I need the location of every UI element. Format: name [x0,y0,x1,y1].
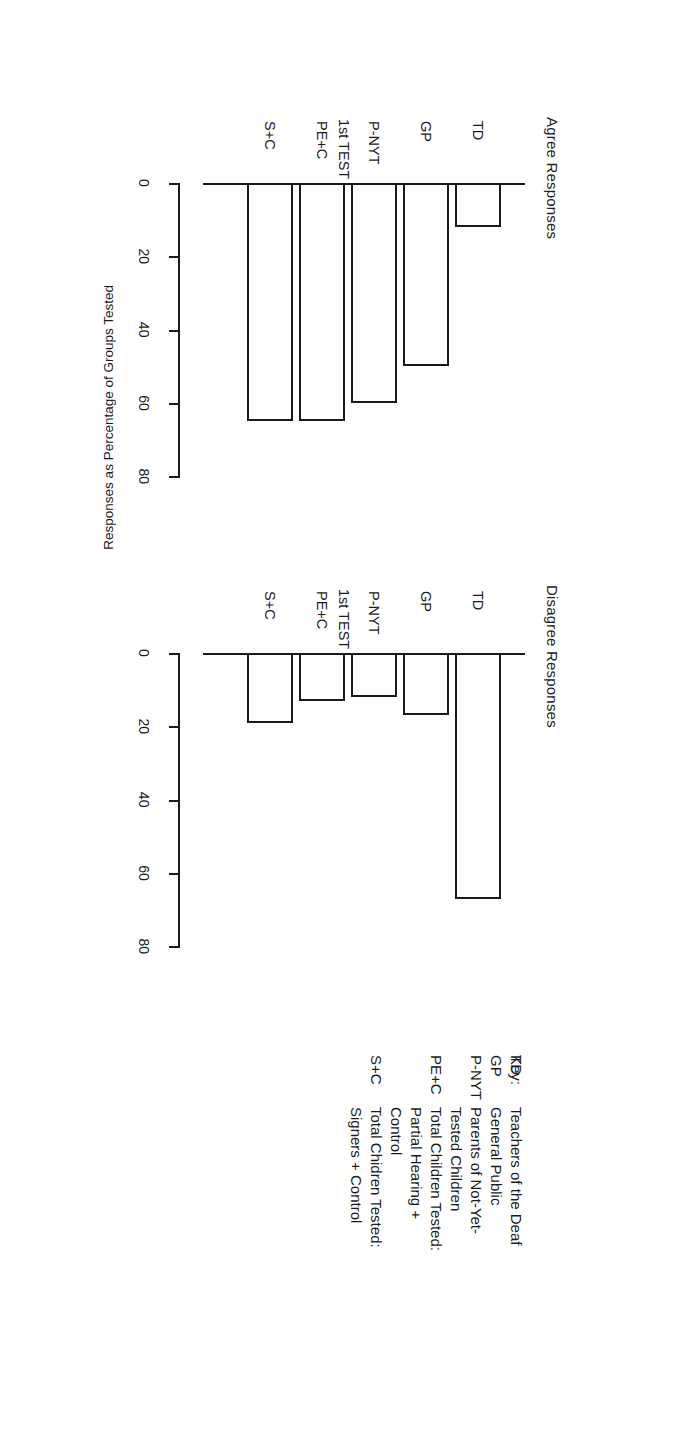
key-desc-line: Partial Hearing + [406,1107,426,1251]
value-tick [169,946,178,948]
chart-panel-agree: Agree Responses 020406080 TDGPP-NYTPE+CS… [0,95,676,565]
value-tick-label: 80 [136,469,152,485]
value-tick-label: 40 [136,322,152,338]
plot-area-disagree: 020406080 TDGPP-NYTPE+CS+C 1st TEST [226,653,501,983]
key-desc-td: Teachers of the Deaf [506,1107,526,1245]
category-label-td: TD [470,121,486,140]
value-tick-label: 20 [136,249,152,265]
value-tick [169,403,178,405]
plot-area-agree: 020406080 TDGPP-NYTPE+CS+C 1st TEST [226,183,501,513]
value-tick [169,256,178,258]
value-tick [169,476,178,478]
bar-p-nyt [351,183,397,403]
bar-pe-plus-c [299,653,345,701]
axis-caption-disagree: 1st TEST [336,589,352,649]
key-desc-line: General Public [486,1107,506,1205]
key-desc-s-plus-c: Total Chidren Tested:Signers + Control [346,1107,386,1248]
bar-gp [403,653,449,715]
key-abbr-td: TD [506,1055,526,1107]
category-label-p-nyt: P-NYT [366,121,382,165]
value-tick-label: 0 [136,649,152,657]
category-label-pe-plus-c: PE+C [314,121,330,159]
chart-panel-disagree: Disagree Responses 020406080 TDGPP-NYTPE… [0,565,676,995]
key-desc-line: Parents of Not-Yet- [466,1107,486,1234]
value-tick [169,873,178,875]
value-tick-label: 40 [136,792,152,808]
value-tick-label: 0 [136,179,152,187]
value-tick-label: 20 [136,719,152,735]
key-desc-line: Total Chidren Tested: [366,1107,386,1248]
axis-caption-agree: 1st TEST [336,119,352,179]
figure-canvas: Agree Responses 020406080 TDGPP-NYTPE+CS… [0,0,676,1436]
bar-gp [403,183,449,366]
value-tick [169,330,178,332]
category-label-s-plus-c: S+C [262,121,278,150]
value-tick-label: 80 [136,939,152,955]
value-tick [169,653,178,655]
value-axis-line-agree [178,183,180,478]
key-desc-line: Control [386,1107,406,1251]
chart-title-agree: Agree Responses [544,117,561,239]
key-abbr-s-plus-c: S+C [366,1055,386,1107]
key-desc-line: Tested Children [446,1107,466,1234]
key-desc-pe-plus-c: Total Children Tested:Partial Hearing +C… [386,1107,446,1251]
key-desc-line: Teachers of the Deaf [506,1107,526,1245]
y-axis-title: Responses as Percentage of Groups Tested [101,285,116,550]
key-desc-p-nyt: Parents of Not-Yet-Tested Children [446,1107,486,1234]
key-desc-line: Total Children Tested: [426,1107,446,1251]
value-axis-line-disagree [178,653,180,948]
bar-s-plus-c [247,183,293,421]
bar-td [455,183,501,227]
category-label-pe-plus-c: PE+C [314,591,330,629]
value-tick-label: 60 [136,865,152,881]
bar-s-plus-c [247,653,293,723]
value-tick [169,183,178,185]
category-label-s-plus-c: S+C [262,591,278,620]
bar-p-nyt [351,653,397,697]
category-label-td: TD [470,591,486,610]
category-label-gp: GP [418,121,434,142]
value-tick [169,800,178,802]
key-abbr-gp: GP [486,1055,506,1107]
category-label-gp: GP [418,591,434,612]
key-desc-gp: General Public [486,1107,506,1205]
category-label-p-nyt: P-NYT [366,591,382,635]
key-abbr-pe-plus-c: PE+C [426,1055,446,1107]
bar-pe-plus-c [299,183,345,421]
value-tick-label: 60 [136,395,152,411]
key-abbr-p-nyt: P-NYT [466,1055,486,1107]
key-desc-line: Signers + Control [346,1107,366,1248]
chart-title-disagree: Disagree Responses [544,585,561,728]
bar-td [455,653,501,899]
value-tick [169,726,178,728]
